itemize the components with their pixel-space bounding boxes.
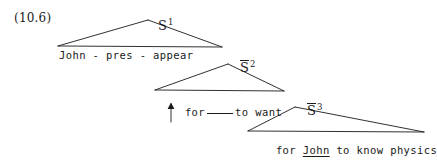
terminal-level2-after-gap: to want bbox=[235, 105, 282, 117]
triangle-s1 bbox=[58, 20, 222, 47]
node-label-s3: S3 bbox=[290, 91, 322, 130]
node-superscript-s3: 3 bbox=[317, 102, 322, 112]
node-superscript-s2: 2 bbox=[250, 59, 255, 69]
example-number: (10.6) bbox=[14, 12, 51, 24]
node-symbol-s2: S bbox=[240, 61, 250, 74]
node-symbol-s3: S bbox=[307, 104, 317, 117]
triangle-s2 bbox=[155, 64, 284, 91]
syntax-tree-diagram: (10.6) S1 John - pres - appear S2 forto … bbox=[0, 0, 431, 150]
node-superscript-s1: 1 bbox=[168, 17, 173, 27]
trace-gap bbox=[205, 105, 235, 116]
tree-lines-layer bbox=[0, 0, 431, 150]
node-label-s1: S1 bbox=[141, 6, 173, 45]
terminal-level3-suffix: to know physics bbox=[330, 144, 437, 156]
terminal-level3-underlined-np: John bbox=[303, 144, 330, 156]
terminal-level1: John - pres - appear bbox=[59, 50, 193, 61]
terminal-level3: for John to know physics bbox=[249, 134, 437, 166]
terminal-level2: forto want bbox=[158, 94, 282, 127]
node-label-s2: S2 bbox=[223, 48, 255, 87]
terminal-level2-before-gap: for bbox=[185, 105, 205, 117]
node-symbol-s1: S bbox=[158, 19, 168, 32]
terminal-level3-prefix: for bbox=[276, 144, 303, 156]
